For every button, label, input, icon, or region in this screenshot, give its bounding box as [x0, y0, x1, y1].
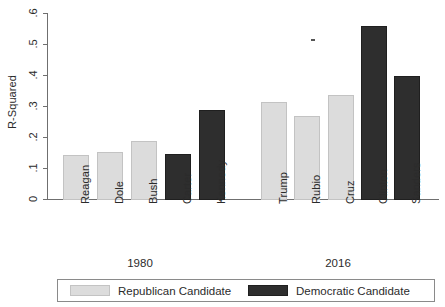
y-tick-0.6	[43, 13, 48, 14]
y-tick-0.1	[43, 168, 48, 169]
x-label-bush: Bush	[147, 179, 159, 204]
legend-swatch-democratic-icon	[248, 285, 288, 296]
y-tick-label-0.4: .4	[27, 67, 39, 83]
y-tick-label-0.6: .6	[27, 5, 39, 21]
y-tick-label-0.2: .2	[27, 129, 39, 145]
y-axis-title: R-Squared	[6, 57, 18, 147]
x-label-kennedy: Kennedy	[215, 160, 227, 204]
y-tick-0.2	[43, 137, 48, 138]
image-artifact-speck	[311, 39, 315, 41]
group-label-2016: 2016	[308, 257, 368, 269]
legend-entry-democratic: Democratic Candidate	[248, 280, 410, 301]
legend-label-republican: Republican Candidate	[118, 285, 231, 297]
group-label-1980: 1980	[110, 257, 170, 269]
legend-label-democratic: Democratic Candidate	[296, 285, 410, 297]
y-tick-0.5	[43, 44, 48, 45]
x-label-trump: Trump	[277, 172, 289, 204]
y-tick-0.4	[43, 75, 48, 76]
x-label-cruz: Cruz	[344, 180, 356, 204]
y-tick-label-0: 0	[27, 191, 39, 207]
x-label-carter: Carter	[181, 173, 193, 204]
y-tick-0.3	[43, 106, 48, 107]
y-tick-label-0.1: .1	[27, 160, 39, 176]
y-tick-0	[43, 199, 48, 200]
y-tick-label-0.5: .5	[27, 36, 39, 52]
legend: Republican Candidate Democratic Candidat…	[57, 279, 435, 302]
x-label-sanders: Sanders	[410, 162, 422, 204]
legend-swatch-republican-icon	[70, 285, 110, 296]
x-label-clinton: Clinton	[377, 169, 389, 204]
y-tick-label-0.3: .3	[27, 98, 39, 114]
legend-entry-republican: Republican Candidate	[70, 280, 231, 301]
x-label-rubio: Rubio	[310, 175, 322, 204]
bar-chart-figure: R-Squared .6 .5 .4 .3 .2 .1 0 Reagan Dol…	[0, 0, 445, 307]
x-label-reagan: Reagan	[79, 165, 91, 204]
x-label-dole: Dole	[113, 181, 125, 204]
